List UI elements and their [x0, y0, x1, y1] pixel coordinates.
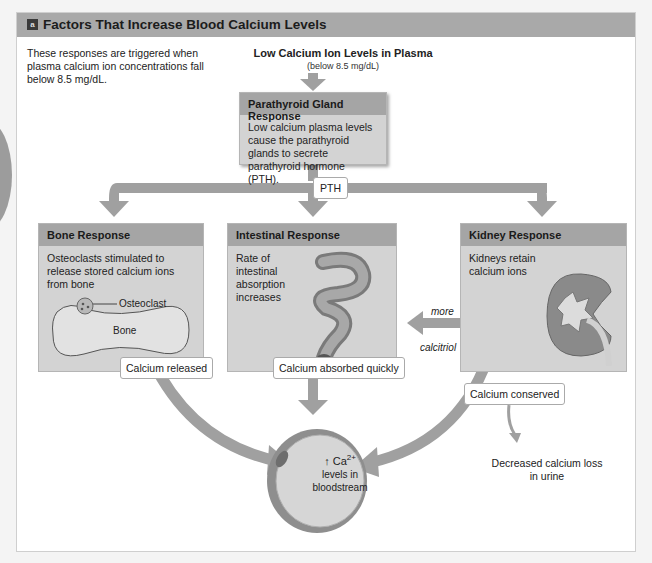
- calcium-absorbed-label: Calcium absorbed quickly: [273, 357, 405, 379]
- pth-label: PTH: [313, 177, 348, 199]
- parathyroid-response-box: Parathyroid Gland Response Low calcium p…: [239, 92, 387, 165]
- bloodstream-text: levels in bloodstream: [305, 468, 375, 494]
- kidney-illustration: [461, 246, 628, 366]
- intestinal-response-box: Intestinal Response Rate of intestinal a…: [227, 223, 397, 372]
- calcium-released-label: Calcium released: [120, 357, 213, 379]
- parathyroid-box-title: Parathyroid Gland Response: [240, 93, 386, 115]
- ion-symbol: Ca: [333, 455, 347, 467]
- more-label: more: [431, 306, 454, 317]
- intestinal-box-title: Intestinal Response: [228, 224, 396, 246]
- osteoclast-label: Osteoclast: [119, 298, 166, 309]
- kidney-box-title: Kidney Response: [461, 224, 626, 246]
- calcium-ion-label: ↑ Ca2+: [305, 451, 375, 468]
- arrow-head-down: [300, 79, 326, 91]
- kidney-response-box: Kidney Response Kidneys retain calcium i…: [460, 223, 627, 372]
- figure-panel: a Factors That Increase Blood Calcium Le…: [16, 12, 636, 552]
- ion-charge: 2+: [347, 453, 356, 462]
- bone-label: Bone: [113, 325, 136, 336]
- bone-response-box: Bone Response Osteoclasts stimulated to …: [38, 223, 204, 372]
- calcitriol-label: calcitriol: [420, 342, 456, 353]
- decorative-edge-shape: [0, 120, 12, 230]
- up-arrow-icon: ↑: [324, 455, 330, 467]
- bone-box-title: Bone Response: [39, 224, 203, 246]
- bloodstream-result: ↑ Ca2+ levels in bloodstream: [305, 451, 375, 494]
- urine-note: Decreased calcium loss in urine: [487, 457, 607, 483]
- calcium-conserved-label: Calcium conserved: [464, 383, 565, 405]
